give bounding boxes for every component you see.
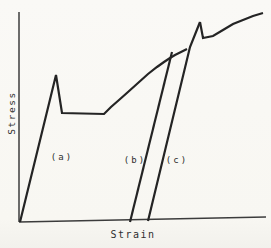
x-axis-label: Strain xyxy=(110,229,155,240)
curve-c-label: (c) xyxy=(166,155,188,165)
chart-canvas xyxy=(0,0,271,248)
stress-strain-figure: Stress Strain (a) (b) (c) xyxy=(0,0,271,248)
curve-b-unload-reload-line xyxy=(130,52,172,222)
curve-a-initial-loading xyxy=(20,49,187,222)
curve-b-label: (b) xyxy=(124,155,146,165)
y-axis-label: Stress xyxy=(6,91,17,134)
x-axis xyxy=(19,217,266,222)
post-aging-flow-curve xyxy=(200,13,263,38)
curve-a-label: (a) xyxy=(51,152,73,162)
